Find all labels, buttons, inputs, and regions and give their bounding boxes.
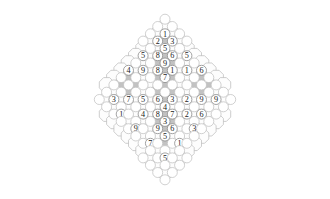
lattice-node-empty[interactable] [138,153,148,163]
lattice-node-empty[interactable] [138,36,148,46]
lattice-node-empty[interactable] [189,131,199,141]
lattice-node-empty[interactable] [145,160,155,170]
lattice-node-value: 9 [199,95,203,104]
lattice-node-empty[interactable] [182,153,192,163]
lattice-node-value: 1 [170,66,174,75]
lattice-node-empty[interactable] [182,80,192,90]
lattice-node-empty[interactable] [218,102,228,112]
lattice-node-value: 8 [156,51,160,60]
lattice-node-empty[interactable] [175,146,185,156]
lattice-node-empty[interactable] [182,36,192,46]
lattice-node-empty[interactable] [138,80,148,90]
lattice-node-empty[interactable] [175,73,185,83]
lattice-node-value: 5 [185,51,189,60]
lattice-node-value: 4 [126,66,130,75]
lattice-node-empty[interactable] [145,146,155,156]
lattice-node-empty[interactable] [197,80,207,90]
lattice-node-value: 6 [170,51,174,60]
lattice-node-empty[interactable] [189,73,199,83]
lattice-node-empty[interactable] [182,138,192,148]
lattice-node-empty[interactable] [153,138,163,148]
lattice-node-empty[interactable] [131,73,141,83]
lattice-node-empty[interactable] [167,153,177,163]
lattice-node-value: 3 [112,95,116,104]
lattice-node-value: 5 [163,44,167,53]
lattice-node-value: 2 [185,95,189,104]
lattice-node-empty[interactable] [211,80,221,90]
lattice-node-value: 5 [141,95,145,104]
lattice-node-empty[interactable] [167,168,177,178]
lattice-node-empty[interactable] [94,95,104,105]
lattice-node-value: 6 [156,95,160,104]
lattice-node-empty[interactable] [167,80,177,90]
lattice-node-empty[interactable] [124,80,134,90]
lattice-node-value: 6 [170,124,174,133]
lattice-node-value: 5 [141,51,145,60]
lattice-node-empty[interactable] [160,160,170,170]
lattice-node-value: 6 [199,66,203,75]
lattice-node-value: 9 [141,66,145,75]
lattice-node-value: 7 [163,73,167,82]
lattice-node-value: 2 [156,37,160,46]
lattice-diamond-figure: 1235586594981167375632994148726399635715 [0,0,330,199]
lattice-node-empty[interactable] [116,116,126,126]
lattice-node-value: 8 [156,66,160,75]
lattice-node-empty[interactable] [145,73,155,83]
lattice-node-value: 9 [214,95,218,104]
lattice-node-value: 6 [199,110,203,119]
lattice-node-value: 9 [156,124,160,133]
lattice-node-value: 3 [163,117,167,126]
lattice-node-empty[interactable] [175,160,185,170]
lattice-node-value: 4 [141,110,145,119]
lattice-node-value: 3 [170,95,174,104]
lattice-node-value: 1 [185,66,189,75]
lattice-node-empty[interactable] [226,95,236,105]
lattice-node-empty[interactable] [204,116,214,126]
lattice-node-empty[interactable] [160,14,170,24]
lattice-node-value: 2 [185,110,189,119]
lattice-node-empty[interactable] [109,80,119,90]
lattice-node-empty[interactable] [138,124,148,134]
lattice-canvas: 1235586594981167375632994148726399635715 [0,0,330,199]
lattice-node-value: 9 [163,59,167,68]
lattice-node-value: 1 [163,30,167,39]
lattice-node-empty[interactable] [153,80,163,90]
lattice-node-empty[interactable] [211,109,221,119]
lattice-node-value: 5 [163,132,167,141]
lattice-node-value: 3 [170,37,174,46]
lattice-node-empty[interactable] [153,168,163,178]
lattice-node-empty[interactable] [160,175,170,185]
lattice-node-empty[interactable] [131,131,141,141]
lattice-node-empty[interactable] [116,73,126,83]
lattice-node-value: 4 [163,103,167,112]
lattice-node-value: 7 [126,95,130,104]
lattice-node-empty[interactable] [197,124,207,134]
lattice-node-value: 7 [170,110,174,119]
lattice-node-empty[interactable] [204,73,214,83]
lattice-node-empty[interactable] [102,102,112,112]
lattice-node-empty[interactable] [124,109,134,119]
lattice-node-value: 8 [156,110,160,119]
